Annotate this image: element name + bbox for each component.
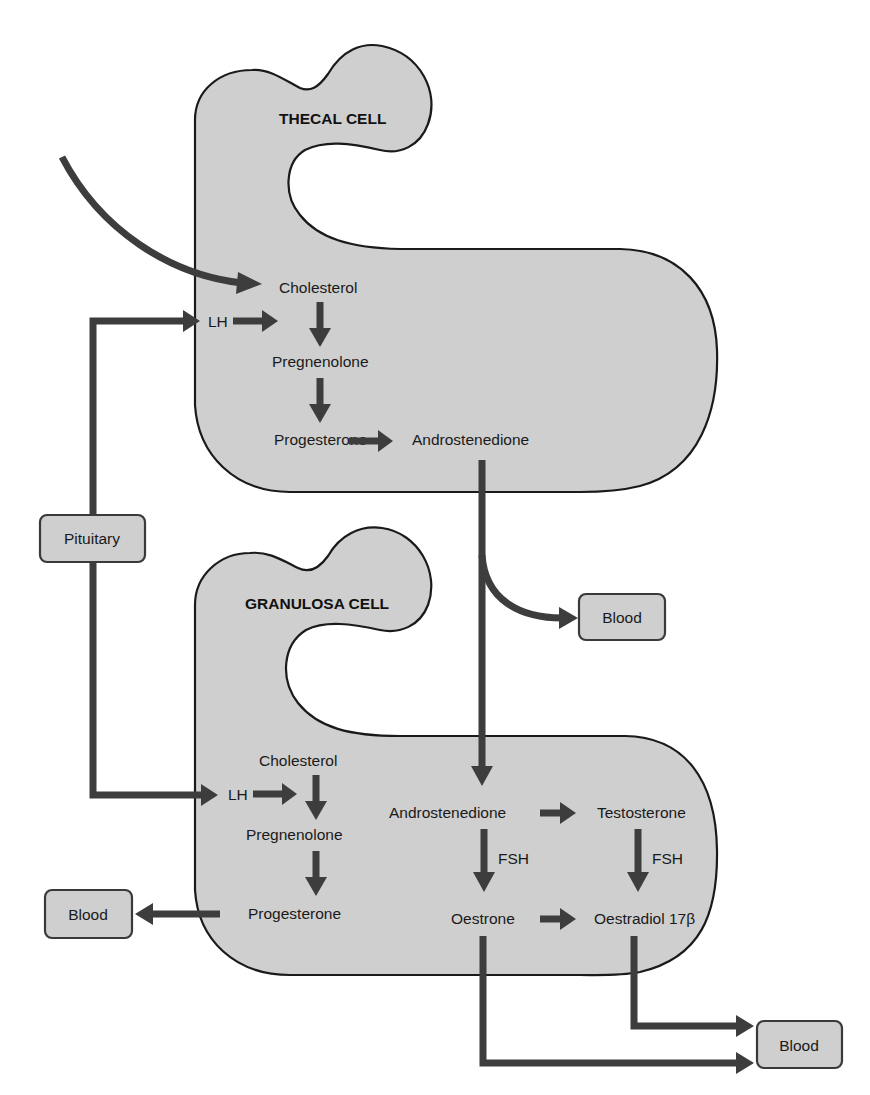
- androstenedione-to-blood-arrow: [482, 555, 562, 618]
- granulosa-oestrone-label: Oestrone: [451, 910, 515, 927]
- pituitary-to-thecal-lh-line: [93, 321, 185, 515]
- granulosa-cell-title: GRANULOSA CELL: [245, 595, 389, 612]
- thecal-lh-label: LH: [208, 313, 228, 330]
- thecal-cell-shape: [195, 45, 717, 492]
- pituitary-label: Pituitary: [64, 530, 120, 547]
- pituitary-to-granulosa-lh-line: [93, 561, 203, 795]
- fsh-label-left: FSH: [498, 850, 529, 867]
- blood-box-granulosa-left: Blood: [45, 890, 132, 938]
- blood-box-bottom-right: Blood: [757, 1021, 842, 1068]
- granulosa-lh-label: LH: [228, 786, 248, 803]
- thecal-pregnenolone-label: Pregnenolone: [272, 353, 369, 370]
- granulosa-progesterone-label: Progesterone: [248, 905, 341, 922]
- arrowhead: [135, 903, 153, 925]
- fsh-label-right: FSH: [652, 850, 683, 867]
- granulosa-pregnenolone-label: Pregnenolone: [246, 826, 343, 843]
- thecal-cell-title: THECAL CELL: [279, 110, 386, 127]
- granulosa-cholesterol-label: Cholesterol: [259, 752, 337, 769]
- blood-box-thecal: Blood: [579, 594, 665, 640]
- arrowhead: [559, 607, 578, 629]
- blood-label: Blood: [602, 609, 642, 626]
- arrowhead: [736, 1052, 754, 1074]
- granulosa-testosterone-label: Testosterone: [597, 804, 686, 821]
- blood-label: Blood: [779, 1037, 819, 1054]
- blood-label: Blood: [68, 906, 108, 923]
- thecal-androstenedione-label: Androstenedione: [412, 431, 529, 448]
- granulosa-androstenedione-label: Androstenedione: [389, 804, 506, 821]
- arrowhead: [736, 1015, 754, 1037]
- granulosa-oestradiol-label: Oestradiol 17β: [594, 910, 695, 927]
- pituitary-box: Pituitary: [40, 515, 145, 562]
- ovarian-steroidogenesis-diagram: THECAL CELL GRANULOSA CELL Cholesterol L…: [0, 0, 870, 1095]
- thecal-cholesterol-label: Cholesterol: [279, 279, 357, 296]
